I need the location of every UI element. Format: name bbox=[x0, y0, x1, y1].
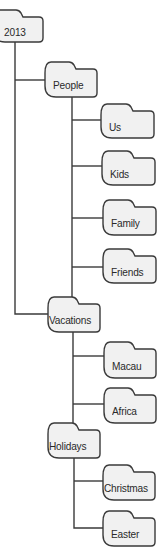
folder-label-kids[interactable]: Kids bbox=[110, 163, 129, 185]
folder-label-africa[interactable]: Africa bbox=[112, 400, 137, 423]
folder-label-2013[interactable]: 2013 bbox=[4, 22, 26, 42]
connector-line bbox=[74, 458, 103, 528]
folder-label-family[interactable]: Family bbox=[111, 212, 140, 235]
folder-label-vacations[interactable]: Vacations bbox=[49, 309, 91, 332]
folder-label-people[interactable]: People bbox=[53, 74, 83, 97]
folder-label-christmas[interactable]: Christmas bbox=[104, 477, 148, 500]
connector-line bbox=[15, 42, 48, 314]
folder-label-macau[interactable]: Macau bbox=[112, 354, 141, 378]
folder-label-friends[interactable]: Friends bbox=[111, 261, 143, 283]
folder-label-easter[interactable]: Easter bbox=[111, 523, 139, 546]
folder-label-us[interactable]: Us bbox=[109, 116, 121, 138]
folder-label-holidays[interactable]: Holidays bbox=[49, 435, 86, 458]
